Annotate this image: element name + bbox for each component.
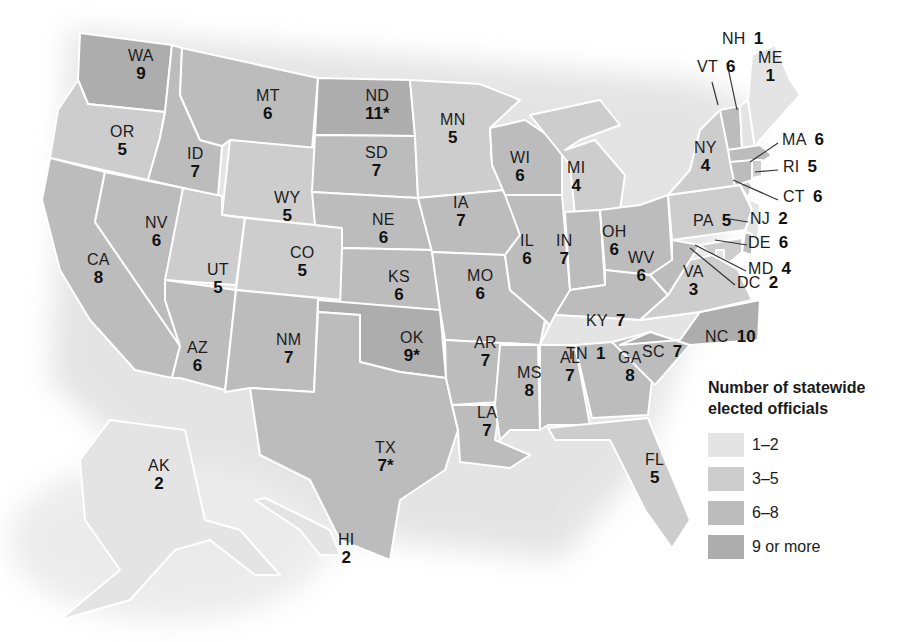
state-label-ny: NY4 (694, 140, 717, 175)
official-count: 6 (628, 267, 654, 285)
official-count: 5 (808, 157, 817, 176)
official-count: 2 (769, 273, 778, 292)
state-abbr: ME (758, 50, 783, 67)
official-count: 8 (618, 367, 642, 385)
state-label-ga: GA8 (618, 350, 642, 385)
state-abbr: CT (783, 188, 805, 205)
legend: Number of statewide elected officials 1–… (708, 378, 913, 564)
state-label-co: CO5 (290, 245, 315, 280)
legend-item-9-plus: 9 or more (708, 530, 913, 564)
official-count: 6 (467, 285, 493, 303)
legend-item-1-2: 1–2 (708, 428, 913, 462)
state-label-oh: OH6 (602, 224, 627, 259)
state-label-fl: FL5 (645, 452, 664, 487)
state-WY (222, 140, 318, 225)
state-label-nj: NJ2 (750, 210, 788, 228)
state-label-wi: WI6 (510, 150, 530, 185)
legend-swatch (708, 433, 744, 457)
state-label-ca: CA8 (87, 252, 110, 287)
state-label-ky: KY7 (586, 312, 625, 330)
official-count: 10 (737, 327, 756, 346)
state-label-mo: MO6 (467, 268, 493, 303)
official-count: 6 (779, 233, 788, 252)
official-count: 7 (365, 162, 388, 180)
official-count: 1 (596, 344, 605, 363)
state-RI (752, 160, 762, 178)
state-abbr: OK (400, 330, 424, 347)
state-abbr: ND (365, 88, 390, 105)
official-count: 7 (187, 163, 204, 181)
state-label-vt: VT6 (697, 58, 736, 76)
state-abbr: AZ (187, 340, 208, 357)
state-abbr: MN (440, 112, 465, 129)
state-abbr: DC (737, 274, 761, 291)
official-count: 6 (813, 187, 822, 206)
state-abbr: MT (256, 88, 280, 105)
official-count: 6 (520, 250, 534, 268)
legend-title: Number of statewide elected officials (708, 378, 913, 420)
state-abbr: IA (453, 195, 469, 212)
state-label-nm: NM7 (276, 332, 301, 367)
state-abbr: SD (365, 145, 388, 162)
state-label-or: OR5 (110, 124, 135, 159)
state-label-nh: NH1 (722, 30, 763, 48)
legend-label: 6–8 (752, 504, 779, 522)
state-label-ct: CT6 (783, 188, 822, 206)
legend-label: 3–5 (752, 470, 779, 488)
official-count: 7 (673, 342, 682, 361)
state-label-pa: PA5 (693, 212, 731, 230)
official-count: 11* (365, 105, 390, 123)
state-label-wa: WA9 (128, 48, 154, 83)
state-label-il: IL6 (520, 233, 534, 268)
state-label-la: LA7 (477, 405, 497, 440)
official-count: 4 (694, 157, 717, 175)
state-abbr: ID (187, 146, 204, 163)
state-label-de: DE6 (748, 234, 788, 252)
state-label-hi: HI2 (338, 532, 355, 567)
state-NM (225, 290, 318, 392)
official-count: 6 (145, 232, 168, 250)
state-label-ak: AK2 (148, 458, 170, 493)
state-abbr: GA (618, 350, 642, 367)
official-count: 7 (556, 250, 573, 268)
legend-item-6-8: 6–8 (708, 496, 913, 530)
official-count: 6 (510, 167, 530, 185)
state-abbr: NV (145, 215, 168, 232)
official-count: 6 (256, 105, 280, 123)
state-abbr: DE (748, 234, 771, 251)
state-abbr: RI (783, 158, 800, 175)
official-count: 6 (187, 357, 208, 375)
state-label-ms: MS8 (517, 365, 542, 400)
official-count: 9* (400, 347, 424, 365)
official-count: 2 (148, 475, 170, 493)
state-abbr: HI (338, 532, 355, 549)
state-abbr: LA (477, 405, 497, 422)
state-abbr: MS (517, 365, 542, 382)
state-abbr: NY (694, 140, 717, 157)
official-count: 2 (338, 549, 355, 567)
state-label-id: ID7 (187, 146, 204, 181)
state-abbr: KY (586, 312, 608, 329)
state-label-ok: OK9* (400, 330, 424, 365)
official-count: 6 (372, 229, 395, 247)
state-abbr: UT (207, 262, 229, 279)
state-label-ri: RI5 (783, 158, 817, 176)
state-label-ut: UT5 (207, 262, 229, 297)
state-abbr: NH (722, 30, 746, 47)
official-count: 6 (815, 130, 824, 149)
official-count: 6 (726, 57, 735, 76)
official-count: 7 (477, 422, 497, 440)
state-abbr: WV (628, 250, 654, 267)
official-count: 7* (375, 457, 396, 475)
state-label-dc: DC2 (737, 274, 778, 292)
official-count: 4 (567, 177, 585, 195)
state-abbr: IL (520, 233, 534, 250)
state-abbr: NE (372, 212, 395, 229)
state-abbr: WA (128, 48, 154, 65)
state-abbr: IN (556, 233, 573, 250)
state-label-ar: AR7 (474, 335, 497, 370)
official-count: 5 (207, 279, 229, 297)
state-label-mt: MT6 (256, 88, 280, 123)
state-label-ks: KS6 (388, 269, 410, 304)
legend-title-line-2: elected officials (708, 399, 913, 420)
